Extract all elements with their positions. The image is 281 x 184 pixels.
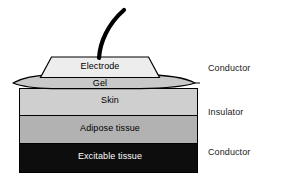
- layer-label-skin: Skin: [20, 95, 200, 105]
- lead-wire: [99, 10, 124, 58]
- side-label-conductor-bottom: Conductor: [208, 147, 250, 157]
- side-label-conductor-top: Conductor: [208, 63, 250, 73]
- layer-label-electrode: Electrode: [20, 61, 180, 71]
- layer-label-excitable: Excitable tissue: [20, 151, 200, 161]
- electrode-tissue-diagram: Electrode Gel Skin Adipose tissue Excita…: [0, 0, 281, 184]
- layer-label-adipose: Adipose tissue: [20, 123, 200, 133]
- side-label-insulator: Insulator: [208, 107, 243, 117]
- layer-label-gel: Gel: [20, 78, 180, 88]
